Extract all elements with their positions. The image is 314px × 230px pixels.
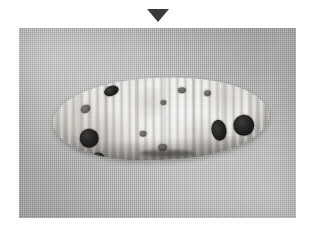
specimen-photograph: [19, 28, 296, 218]
down-triangle-icon: [147, 9, 169, 22]
figure-marker-row: ▼: [0, 4, 314, 22]
ground-smudge-center: [139, 150, 195, 157]
figure-page: ▼: [0, 0, 314, 230]
